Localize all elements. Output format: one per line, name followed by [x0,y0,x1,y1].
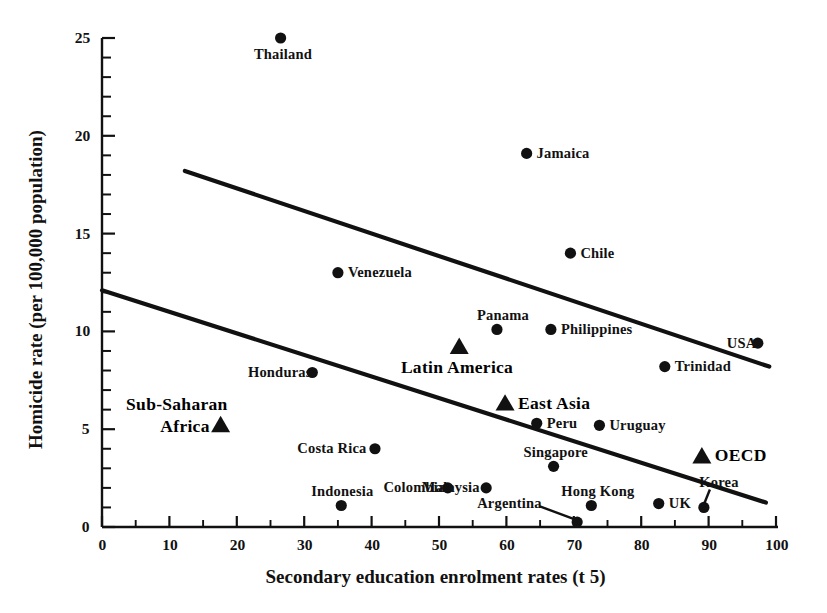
x-tick-label-50: 50 [432,537,448,553]
data-point-singapore [548,461,559,472]
point-label-singapore: Singapore [524,445,588,460]
y-tick-label-20: 20 [75,128,91,144]
data-point-uk [653,498,664,509]
data-point-korea [698,502,709,513]
point-label-latin-america: Latin America [401,359,513,377]
chart-canvas: 01020304050607080901000510152025 Thailan… [0,0,827,613]
x-tick-label-40: 40 [364,537,380,553]
upper-regression-line [185,171,769,367]
x-axis-title: Secondary education enrolment rates (t 5… [265,567,605,586]
data-point-costa-rica [369,443,380,454]
point-label-philippines: Philippines [561,322,633,337]
point-label-oecd: OECD [715,447,767,465]
data-point-malaysia [481,482,492,493]
data-markers [211,32,763,527]
data-point-thailand [275,32,286,43]
x-tick-label-70: 70 [567,537,583,553]
data-point-indonesia [336,500,347,511]
point-label-thailand: Thailand [254,47,312,62]
x-tick-label-10: 10 [162,537,178,553]
point-label-honduras: Honduras [248,365,312,380]
point-label-peru: Peru [547,416,578,431]
point-label-costa-rica: Costa Rica [297,441,366,456]
data-point-venezuela [332,267,343,278]
y-axis-title: Homicide rate (per 100,000 population) [26,130,45,449]
point-label-panama: Panama [477,308,529,323]
data-point-philippines [545,324,556,335]
data-point-latin-america [450,338,469,354]
x-tick-label-80: 80 [634,537,650,553]
data-point-jamaica [521,148,532,159]
point-label-indonesia: Indonesia [311,484,373,499]
point-label-trinidad: Trinidad [675,359,731,374]
point-label-colombia: Colombia [383,480,445,495]
group-label-sub-saharan-africa-line1: Sub-Saharan [126,396,228,414]
y-tick-label-10: 10 [75,323,91,339]
point-label-venezuela: Venezuela [348,265,412,280]
data-point-sub-saharan-africa [211,416,230,432]
data-point-hong-kong [586,500,597,511]
group-label-sub-saharan-africa-line2: Africa [160,418,209,436]
x-tick-label-20: 20 [230,537,246,553]
data-point-east-asia [496,394,515,410]
y-tick-label-15: 15 [75,226,91,242]
point-label-usa: USA [727,336,757,351]
point-label-jamaica: Jamaica [537,146,590,161]
point-label-east-asia: East Asia [518,395,590,413]
x-tick-label-30: 30 [297,537,313,553]
data-point-panama [491,324,502,335]
point-label-chile: Chile [580,246,614,261]
scatter-plot-svg [0,0,827,613]
data-point-peru [531,418,542,429]
x-tick-label-60: 60 [499,537,515,553]
y-tick-label-25: 25 [75,30,91,46]
point-label-hong-kong: Hong Kong [561,484,634,499]
data-point-uruguay [594,420,605,431]
data-point-trinidad [659,361,670,372]
point-label-uruguay: Uruguay [609,418,665,433]
point-label-uk: UK [669,496,691,511]
data-point-chile [565,248,576,259]
x-tick-label-100: 100 [765,537,788,553]
point-label-korea: Korea [699,475,738,490]
y-tick-label-0: 0 [82,519,90,535]
data-point-oecd [692,447,711,463]
y-tick-label-5: 5 [82,421,90,437]
data-point-argentina [572,517,583,528]
axes [102,38,778,527]
x-tick-label-0: 0 [98,537,106,553]
trend-lines [102,171,769,503]
x-tick-label-90: 90 [701,537,717,553]
point-label-argentina: Argentina [477,496,542,511]
